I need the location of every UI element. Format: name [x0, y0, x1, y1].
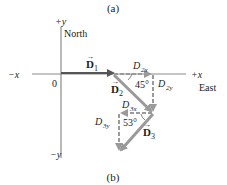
vector-d3-label: D 3 → — [143, 120, 155, 141]
origin-label: 0 — [52, 78, 57, 89]
svg-text:→: → — [86, 52, 94, 61]
angle-53-label: 53° — [123, 117, 137, 128]
angle-45-label: 45° — [135, 79, 149, 90]
east-label: East — [199, 82, 216, 93]
svg-text:D: D — [132, 60, 141, 71]
svg-text:D: D — [121, 99, 130, 110]
svg-text:D: D — [157, 78, 166, 89]
plus-x-label: +x — [191, 69, 203, 80]
component-d3y-label: D 3y — [94, 116, 111, 130]
vector-diagram: (a) +y North −x +x East 0 −y D 1 → D 2x … — [0, 0, 227, 185]
svg-text:3y: 3y — [102, 122, 111, 130]
component-d2y-label: D 2y — [157, 78, 174, 92]
svg-text:2: 2 — [119, 89, 123, 98]
minus-x-label: −x — [8, 69, 20, 80]
panel-label-a: (a) — [107, 2, 120, 15]
svg-text:2y: 2y — [166, 84, 174, 92]
north-label: North — [64, 28, 87, 39]
component-d2x-label: D 2x — [132, 60, 149, 74]
plus-y-label: +y — [55, 16, 67, 27]
vector-d1-label: D 1 → — [86, 52, 98, 73]
svg-text:1: 1 — [94, 64, 98, 73]
svg-text:3x: 3x — [129, 105, 138, 113]
svg-text:→: → — [143, 120, 151, 129]
svg-text:→: → — [111, 77, 119, 86]
svg-text:3: 3 — [151, 132, 155, 141]
panel-label-b: (b) — [107, 171, 120, 184]
component-d3x-label: D 3x — [121, 99, 138, 113]
svg-text:D: D — [94, 116, 103, 127]
svg-text:2x: 2x — [141, 66, 149, 74]
minus-y-label: −y — [50, 149, 62, 160]
